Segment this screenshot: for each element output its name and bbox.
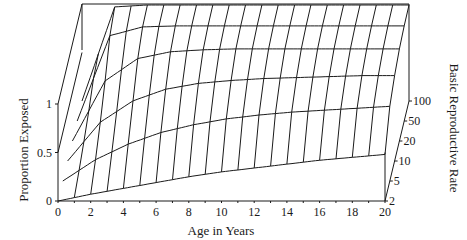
surface-age-line: [156, 5, 180, 183]
surface-age-line: [222, 5, 246, 172]
z-axis: 25102050100: [385, 94, 431, 208]
z-tick-label: 2: [389, 194, 395, 208]
z-tick-label: 100: [413, 94, 431, 108]
x-tick-label: 6: [153, 205, 159, 219]
surface-age-line: [287, 5, 311, 164]
z-tick-label: 5: [394, 174, 400, 188]
x-tick-label: 10: [216, 205, 228, 219]
x-axis: 02468101214161820: [55, 201, 391, 219]
surface-curve: [77, 26, 404, 121]
left-top-edge: [58, 4, 82, 104]
surface-curve: [72, 49, 399, 141]
surface-age-line: [254, 5, 278, 168]
surface-age-line: [140, 5, 164, 186]
surface-age-line: [385, 5, 409, 154]
surface-age-line: [303, 5, 327, 162]
x-tick-label: 14: [281, 205, 293, 219]
x-tick-label: 4: [120, 205, 126, 219]
surface-age-line: [352, 5, 376, 157]
z-tick-label: 50: [408, 114, 420, 128]
x-axis-title: Age in Years: [188, 223, 255, 238]
surface-mesh: [58, 5, 409, 201]
surface-age-line: [369, 5, 393, 156]
surface-curve: [58, 154, 385, 201]
surface-age-line: [173, 5, 197, 180]
x-tick-label: 18: [346, 205, 358, 219]
surface-age-line: [320, 5, 344, 160]
y-tick-label: 0.5: [37, 146, 52, 160]
y-axis: 00.51: [37, 97, 58, 208]
surface-age-line: [205, 5, 229, 174]
surface-chart: 02468101214161820 00.51 25102050100 Age …: [0, 0, 467, 240]
x-tick-label: 8: [186, 205, 192, 219]
x-tick-label: 2: [88, 205, 94, 219]
surface-age-line: [189, 5, 213, 177]
surface-age-line: [271, 5, 295, 166]
x-tick-label: 16: [314, 205, 326, 219]
x-tick-label: 0: [55, 205, 61, 219]
surface-age-line: [238, 5, 262, 170]
x-tick-label: 12: [248, 205, 260, 219]
y-axis-title: Proportion Exposed: [16, 98, 31, 202]
z-axis-title: Basic Reproductive Rate: [447, 63, 462, 192]
y-tick-label: 1: [46, 97, 52, 111]
surface-age-line: [336, 5, 360, 159]
z-tick-label: 20: [403, 134, 415, 148]
z-tick-label: 10: [399, 154, 411, 168]
y-tick-label: 0: [46, 194, 52, 208]
left-mid-edge: [58, 53, 82, 153]
